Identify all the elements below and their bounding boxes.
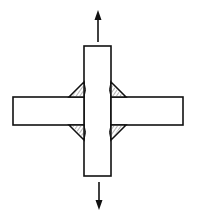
tension-arrow-down-icon [96,182,103,210]
vertical-plate [84,46,111,176]
tension-arrow-up-icon [95,10,102,42]
weld-top-left [69,82,86,97]
weld-bottom-left [69,125,86,140]
weld-top-right [110,82,127,97]
weld-bottom-right [110,125,127,140]
left-plate [13,97,84,125]
right-plate [111,97,183,125]
cruciform-weld-diagram [0,0,198,219]
